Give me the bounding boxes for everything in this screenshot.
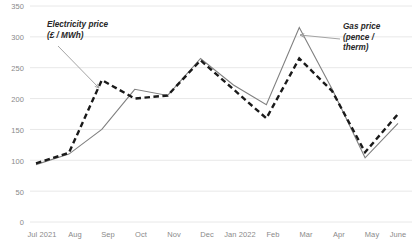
gas-annotation-line3: therm) (343, 43, 380, 54)
y-tick-300: 300 (2, 33, 24, 42)
gas-annotation-line2: (pence / (343, 33, 380, 44)
y-tick-250: 250 (2, 64, 24, 73)
x-tick-june: June (381, 230, 415, 239)
y-tick-100: 100 (2, 157, 24, 166)
y-tick-200: 200 (2, 95, 24, 104)
y-tick-0: 0 (2, 218, 24, 227)
gas-price-annotation: Gas price (pence / therm) (343, 22, 380, 54)
line-chart-energy-prices: 350 300 250 200 150 100 50 0 Jul 2021 Au… (0, 0, 415, 244)
electricity-annotation-leader (58, 46, 99, 88)
gas-annotation-line1: Gas price (343, 22, 380, 33)
electricity-price-annotation: Electricity price (£ / MWh) (47, 20, 108, 41)
electricity-annotation-line1: Electricity price (47, 20, 108, 31)
electricity-annotation-line2: (£ / MWh) (47, 31, 108, 42)
series-line-electricity (36, 58, 398, 163)
y-tick-150: 150 (2, 126, 24, 135)
y-tick-50: 50 (2, 188, 24, 197)
y-tick-350: 350 (2, 2, 24, 11)
